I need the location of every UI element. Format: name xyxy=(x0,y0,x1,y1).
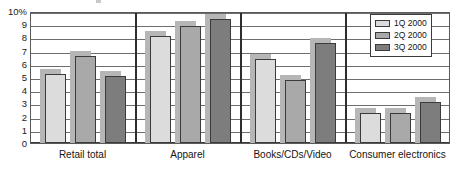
legend-item[interactable]: 2Q 2000 xyxy=(375,30,427,41)
y-axis-tick-label: 0 xyxy=(22,139,27,149)
legend-swatch-icon xyxy=(375,20,390,27)
y-axis-tick-label: 5 xyxy=(22,73,27,83)
y-axis-tick-label: 2 xyxy=(22,113,27,123)
bar[interactable] xyxy=(150,36,171,143)
y-axis-tick-label: 1 xyxy=(22,126,27,136)
group-separator xyxy=(345,13,347,143)
legend-swatch-icon xyxy=(375,44,390,51)
bar[interactable] xyxy=(285,80,306,143)
y-axis-tick-label: 9 xyxy=(22,20,27,30)
group-separator xyxy=(240,13,242,143)
bar[interactable] xyxy=(180,26,201,143)
bar[interactable] xyxy=(105,76,126,143)
y-axis-tick-label: 6 xyxy=(22,60,27,70)
bar[interactable] xyxy=(315,43,336,143)
bar[interactable] xyxy=(45,74,66,143)
legend-item[interactable]: 1Q 2000 xyxy=(375,18,427,29)
legend-label: 2Q 2000 xyxy=(394,31,427,40)
category-label: Apparel xyxy=(170,150,204,160)
bar[interactable] xyxy=(255,59,276,143)
bar[interactable] xyxy=(75,56,96,143)
bar[interactable] xyxy=(210,19,231,143)
y-axis-tick-label: 7 xyxy=(22,47,27,57)
category-axis-labels: Retail totalApparelBooks/CDs/VideoConsum… xyxy=(30,150,450,168)
group-separator xyxy=(135,13,137,143)
cropped-text-artifact xyxy=(96,0,101,3)
legend-swatch-icon xyxy=(375,32,390,39)
bar[interactable] xyxy=(360,113,381,143)
category-label: Retail total xyxy=(59,150,106,160)
legend-label: 1Q 2000 xyxy=(394,19,427,28)
chart-legend: 1Q 20002Q 20003Q 2000 xyxy=(370,14,432,57)
legend-item[interactable]: 3Q 2000 xyxy=(375,42,427,53)
category-label: Consumer electronics xyxy=(349,150,446,160)
y-axis-tick-label: 10% xyxy=(8,7,27,17)
y-axis: 10%9876543210 xyxy=(0,12,30,144)
category-label: Books/CDs/Video xyxy=(253,150,331,160)
legend-label: 3Q 2000 xyxy=(394,43,427,52)
y-axis-tick-label: 8 xyxy=(22,34,27,44)
bar[interactable] xyxy=(420,102,441,143)
y-axis-tick-label: 4 xyxy=(22,86,27,96)
bar-chart: 10%9876543210 Retail totalApparelBooks/C… xyxy=(0,0,457,174)
bar[interactable] xyxy=(390,113,411,143)
y-axis-tick-label: 3 xyxy=(22,100,27,110)
